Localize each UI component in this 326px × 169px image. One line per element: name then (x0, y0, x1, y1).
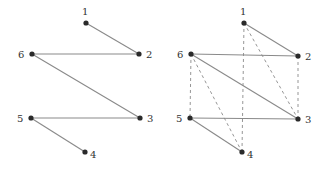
node-3 (137, 115, 142, 120)
node-label-1: 1 (82, 6, 88, 17)
node-3 (295, 116, 300, 121)
node-4 (82, 149, 87, 154)
solid-edge-5-4 (31, 118, 85, 152)
node-4 (239, 149, 244, 154)
dashed-edge-1-4 (242, 23, 244, 152)
graph-diagram-canvas: 123456 123456 (0, 0, 326, 169)
node-5 (28, 115, 33, 120)
solid-edge-6-3 (32, 54, 140, 118)
solid-edge-3-5 (190, 118, 298, 119)
node-label-2: 2 (146, 49, 152, 60)
dashed-edge-1-3 (244, 23, 298, 119)
dashed-edge-6-5 (190, 54, 191, 118)
node-5 (187, 115, 192, 120)
node-label-5: 5 (17, 113, 23, 124)
node-6 (29, 51, 34, 56)
node-6 (188, 51, 193, 56)
dashed-edge-6-4 (191, 54, 242, 152)
node-1 (83, 20, 88, 25)
node-label-3: 3 (305, 114, 311, 125)
solid-edge-6-3 (191, 54, 298, 119)
node-2 (295, 53, 300, 58)
solid-edge-1-2 (86, 23, 139, 54)
node-label-2: 2 (305, 51, 311, 62)
node-label-1: 1 (240, 6, 246, 17)
solid-edge-1-2 (244, 23, 298, 56)
node-label-4: 4 (247, 149, 253, 160)
solid-edge-2-6 (191, 54, 298, 56)
node-1 (241, 20, 246, 25)
node-label-6: 6 (18, 49, 24, 60)
solid-edge-5-4 (190, 118, 242, 152)
node-label-6: 6 (177, 49, 183, 60)
node-2 (136, 51, 141, 56)
node-label-4: 4 (90, 149, 96, 160)
right-graph: 123456 (176, 6, 311, 160)
node-label-5: 5 (176, 113, 182, 124)
node-label-3: 3 (147, 113, 153, 124)
left-graph: 123456 (17, 6, 153, 160)
